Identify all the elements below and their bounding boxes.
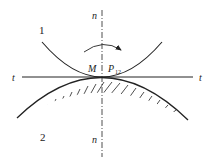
instant-center-label: P xyxy=(107,63,114,74)
rotation-arrow-icon xyxy=(84,44,121,52)
normal-label-top: n xyxy=(92,10,97,21)
contact-diagram: n n 1 2 t t M P 12 xyxy=(0,0,213,162)
contact-point-label: M xyxy=(87,63,97,74)
diagram-svg: n n 1 2 t t M P 12 xyxy=(0,0,213,162)
tangent-label-right: t xyxy=(199,72,202,83)
body2-label: 2 xyxy=(40,131,46,143)
instant-center-subscript: 12 xyxy=(115,69,121,75)
normal-label-bottom: n xyxy=(92,134,97,145)
tangent-label-left: t xyxy=(12,72,15,83)
body1-label: 1 xyxy=(39,24,45,36)
